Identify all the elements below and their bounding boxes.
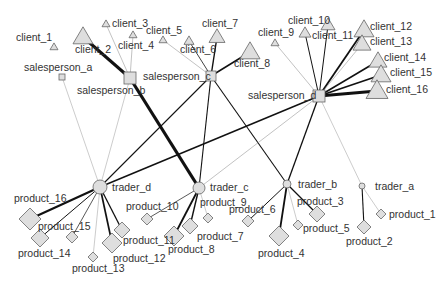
node-label: client_4 — [118, 39, 154, 51]
node-product-5 — [293, 220, 303, 230]
node-label: client_12 — [370, 20, 412, 32]
node-label: client_3 — [112, 17, 148, 29]
node-label: product_8 — [168, 243, 215, 255]
node-label: salesperson_c — [143, 70, 211, 82]
node-client-5 — [159, 36, 167, 43]
edge-salesperson_c-trader_c — [199, 76, 211, 188]
node-label: client_16 — [386, 83, 428, 95]
node-client-3 — [102, 20, 110, 27]
node-trader-d — [93, 180, 107, 194]
edge-salesperson_d-trader_d — [100, 96, 319, 187]
node-label: client_9 — [258, 26, 294, 38]
node-label: product_5 — [303, 222, 350, 234]
node-product-1 — [376, 209, 386, 219]
node-product-13 — [88, 252, 98, 262]
edge-client_11-salesperson_d — [305, 33, 319, 96]
node-trader-a — [359, 183, 365, 189]
node-label: product_4 — [258, 247, 305, 259]
node-label: client_11 — [312, 29, 353, 41]
node-label: client_1 — [16, 31, 52, 43]
node-label: product_14 — [18, 247, 71, 259]
node-product-12 — [102, 233, 122, 253]
node-label: client_5 — [146, 24, 182, 36]
node-label: trader_d — [112, 181, 151, 193]
node-label: salesperson_b — [77, 84, 145, 96]
node-label: client_8 — [234, 57, 270, 69]
node-label: product_16 — [14, 192, 67, 204]
node-client-7 — [209, 29, 225, 43]
node-label: client_13 — [370, 35, 412, 47]
node-client-1 — [50, 43, 58, 50]
node-trader-b — [283, 180, 291, 188]
node-label: client_10 — [288, 14, 330, 26]
node-client-11 — [299, 27, 311, 37]
node-label: product_13 — [72, 262, 125, 274]
label-layer: client_1client_2client_3client_4client_5… — [14, 14, 436, 274]
node-salesperson-b — [124, 72, 136, 84]
node-label: product_9 — [200, 196, 247, 208]
node-label: product_3 — [297, 195, 344, 207]
node-label: client_14 — [384, 51, 426, 63]
node-label: product_7 — [197, 230, 244, 242]
node-client-9 — [271, 39, 279, 46]
node-product-9 — [203, 213, 213, 223]
edge-salesperson_d-trader_c — [199, 96, 319, 188]
network-diagram: client_1client_2client_3client_4client_5… — [0, 0, 442, 290]
node-label: product_15 — [38, 220, 91, 232]
node-label: trader_c — [210, 181, 249, 193]
node-product-2 — [357, 220, 371, 234]
node-product-4 — [269, 226, 289, 246]
edge-salesperson_d-trader_b — [287, 96, 319, 184]
edge-salesperson_d-trader_a — [319, 96, 362, 186]
node-client-4 — [129, 31, 137, 38]
node-label: client_7 — [202, 17, 238, 29]
node-product-7 — [182, 218, 198, 234]
node-label: product_10 — [126, 200, 179, 212]
node-label: product_2 — [346, 235, 393, 247]
node-label: trader_a — [375, 180, 414, 192]
node-label: product_1 — [389, 208, 436, 220]
node-product-15 — [66, 231, 78, 243]
node-salesperson-a — [59, 74, 65, 80]
node-product-10 — [141, 213, 153, 225]
node-label: client_6 — [180, 43, 216, 55]
node-label: salesperson_d — [248, 89, 316, 101]
node-label: trader_b — [298, 178, 337, 190]
node-client-16 — [366, 80, 388, 99]
node-label: salesperson_a — [24, 61, 92, 73]
node-label: client_2 — [75, 43, 111, 55]
node-label: client_15 — [390, 66, 432, 78]
node-label: product_11 — [123, 234, 175, 246]
node-client-2 — [73, 27, 93, 44]
node-trader-c — [193, 182, 205, 194]
